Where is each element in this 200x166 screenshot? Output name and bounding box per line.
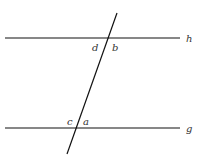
transversal-line bbox=[67, 13, 117, 154]
angle-b-label: b bbox=[112, 42, 118, 53]
angle-c-label: c bbox=[67, 116, 73, 127]
angle-d-label: d bbox=[92, 42, 98, 53]
angle-a-label: a bbox=[83, 116, 89, 127]
line-g-label: g bbox=[186, 123, 192, 134]
line-h-label: h bbox=[186, 33, 192, 44]
parallel-lines-diagram: h g d b c a bbox=[0, 0, 200, 166]
